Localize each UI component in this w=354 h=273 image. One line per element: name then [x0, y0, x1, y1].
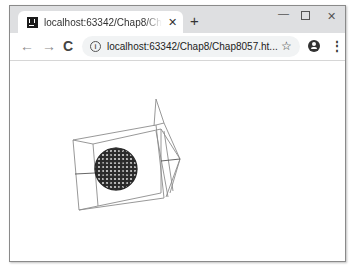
- browser-window: localhost:63342/Chap8/Chap8057.html ✕ + …: [9, 5, 346, 262]
- page-viewport: [10, 61, 345, 261]
- threejs-canvas[interactable]: [1, 1, 354, 273]
- wireframe-sphere: [95, 148, 137, 190]
